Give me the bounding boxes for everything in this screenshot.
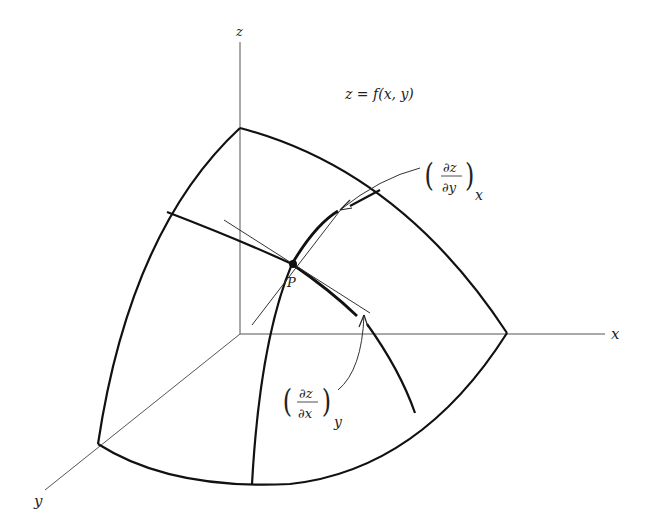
x-axis-label: x	[611, 325, 620, 343]
z-axis-label: z	[235, 24, 243, 39]
equation-label: z = f(x, y)	[344, 86, 414, 102]
y-axis-label: y	[33, 492, 43, 510]
subscript: x	[475, 187, 483, 203]
point-p-label: P	[286, 275, 296, 290]
curve-through-p-x-direction	[292, 264, 357, 316]
paren-left: (	[283, 383, 292, 420]
paren-right: )	[322, 383, 331, 420]
curve-through-p-y-direction	[292, 211, 338, 264]
subscript: y	[333, 414, 343, 430]
curve-left-segment	[167, 212, 292, 264]
point-p	[289, 260, 297, 268]
paren-right: )	[465, 157, 474, 194]
tangent-line-y	[252, 208, 342, 325]
curve-right-lower-segment	[367, 324, 415, 413]
surface-edge-top-left	[98, 128, 240, 444]
denominator: ∂x	[298, 406, 313, 421]
curve-lower-segment	[252, 264, 292, 484]
annotation-dz-dx-y: ( ∂z ∂x ) y	[283, 383, 343, 430]
numerator: ∂z	[443, 160, 457, 175]
paren-left: (	[425, 157, 434, 194]
annotation-dz-dy-x: ( ∂z ∂y ) x	[425, 157, 483, 203]
denominator: ∂y	[442, 180, 457, 195]
surface-diagram: z x y z = f(x, y) P ( ∂z ∂y ) x ( ∂z ∂x …	[0, 0, 647, 529]
arrow-dz-dx	[338, 315, 364, 390]
numerator: ∂z	[299, 386, 313, 401]
